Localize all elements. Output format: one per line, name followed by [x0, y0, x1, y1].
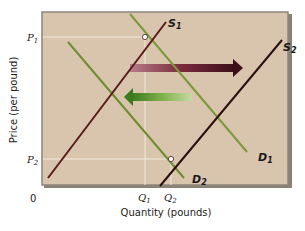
y-axis-title: Price (per pound) [8, 57, 19, 144]
s2-label: S2 [283, 41, 297, 55]
origin-label: 0 [30, 193, 36, 204]
supply-demand-chart: S1 S2 D1 D2 P1 P2 Q1 Q2 0 Quantity (poun… [0, 0, 305, 231]
q2-tick-label: Q2 [164, 192, 177, 205]
x-axis-title: Quantity (pounds) [121, 207, 212, 218]
equilibrium-point-1 [142, 34, 147, 39]
p1-tick-label: P1 [26, 32, 38, 45]
equilibrium-point-2 [168, 156, 173, 161]
q1-tick-label: Q1 [138, 192, 151, 205]
p2-tick-label: P2 [26, 154, 39, 167]
